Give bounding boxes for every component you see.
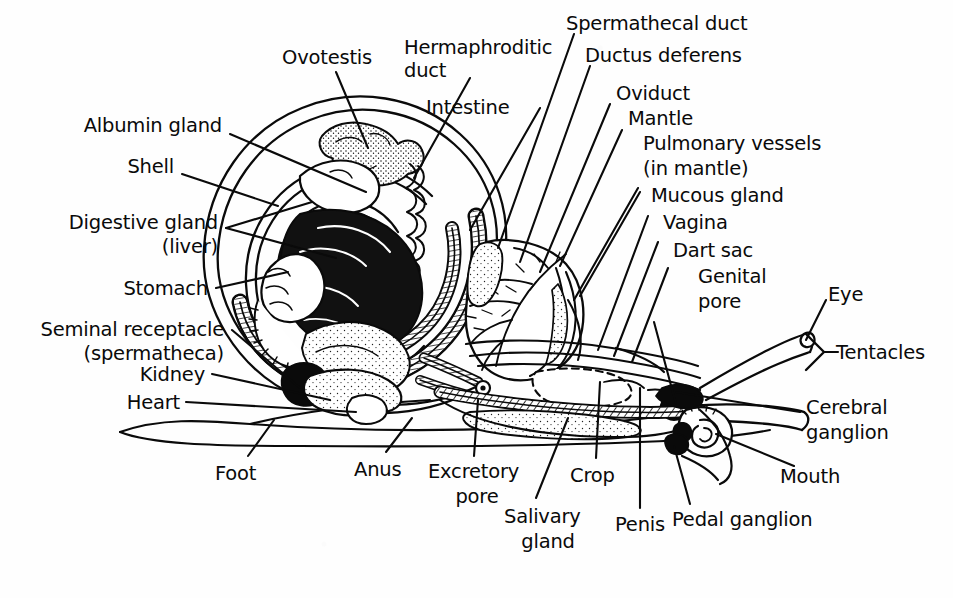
label-heart: Heart — [0, 391, 180, 414]
label-spermathecal-duct: Spermathecal duct — [566, 12, 747, 35]
leader-vagina — [614, 242, 658, 356]
pedal-ganglion-shape — [665, 434, 688, 454]
label-crop: Crop — [570, 464, 615, 487]
leader-ductus-deferens — [520, 66, 590, 262]
stomach-shape — [261, 254, 324, 322]
leader-pedal-ganglion — [674, 446, 690, 504]
leader-pulmonary-vessels-2 — [580, 192, 640, 296]
label-ductus-deferens: Ductus deferens — [585, 44, 742, 67]
label-penis: Penis — [615, 513, 665, 536]
label-cerebral-ganglion-line2: ganglion — [806, 421, 889, 444]
leader-dart-sac — [632, 268, 668, 362]
label-foot: Foot — [215, 462, 256, 485]
label-stomach: Stomach — [0, 277, 208, 300]
label-mucous-gland: Mucous gland — [651, 184, 784, 207]
label-digestive-gland-line1: Digestive gland — [0, 211, 218, 234]
label-pulmonary-vessels-line2: (in mantle) — [643, 157, 748, 180]
figure-canvas: Ovotestis Hermaphroditic duct Spermathec… — [0, 0, 953, 598]
label-pedal-ganglion: Pedal ganglion — [672, 508, 812, 531]
label-cerebral-ganglion-line1: Cerebral — [806, 396, 887, 419]
label-salivary-gland-line1: Salivary — [504, 505, 581, 528]
label-oviduct: Oviduct — [616, 82, 690, 105]
label-shell: Shell — [0, 155, 174, 178]
label-ovotestis: Ovotestis — [282, 46, 372, 69]
leader-eye — [806, 300, 826, 340]
leader-hermaphroditic-duct — [414, 78, 470, 178]
heart-shape — [347, 395, 387, 424]
label-mouth: Mouth — [780, 465, 840, 488]
label-seminal-receptacle-line2: (spermatheca) — [0, 342, 224, 365]
label-intestine: Intestine — [426, 96, 510, 119]
label-genital-pore-line1: Genital — [698, 265, 767, 288]
label-genital-pore-line2: pore — [698, 290, 741, 313]
label-eye: Eye — [828, 283, 863, 306]
label-albumin-gland: Albumin gland — [0, 114, 222, 137]
label-anus: Anus — [354, 458, 401, 481]
label-pulmonary-vessels-line1: Pulmonary vessels — [643, 132, 821, 155]
label-tentacles: Tentacles — [836, 341, 925, 364]
label-kidney: Kidney — [0, 363, 205, 386]
label-salivary-gland-line2: gland — [504, 530, 592, 553]
label-dart-sac: Dart sac — [673, 239, 753, 262]
leader-pulmonary-vessels — [574, 188, 638, 300]
label-hermaphroditic-duct-line1: Hermaphroditic — [404, 36, 552, 59]
label-mantle: Mantle — [628, 107, 693, 130]
label-vagina: Vagina — [663, 211, 728, 234]
label-seminal-receptacle-line1: Seminal receptacle — [0, 318, 224, 341]
leader-oviduct — [540, 104, 610, 272]
label-digestive-gland-line2: (liver) — [0, 235, 218, 258]
label-excretory-pore-line1: Excretory — [428, 460, 519, 483]
label-hermaphroditic-duct-line2: duct — [404, 59, 446, 82]
